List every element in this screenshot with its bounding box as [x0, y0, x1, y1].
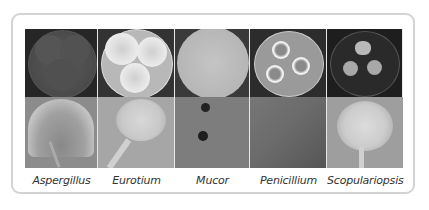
micro-eurotium — [98, 97, 175, 168]
plate-penicillium — [250, 29, 327, 97]
image-grid — [25, 29, 403, 168]
plate-mucor — [175, 29, 250, 97]
plate-aspergillus — [25, 29, 98, 97]
label-eurotium: Eurotium — [98, 174, 175, 187]
label-mucor: Mucor — [175, 174, 250, 187]
micro-aspergillus — [25, 97, 98, 168]
genus-labels: Aspergillus Eurotium Mucor Penicillium S… — [25, 174, 403, 187]
plate-eurotium — [98, 29, 175, 97]
label-aspergillus: Aspergillus — [25, 174, 98, 187]
micro-mucor — [175, 97, 250, 168]
plate-scopulariopsis — [327, 29, 403, 97]
label-scopulariopsis: Scopulariopsis — [327, 174, 403, 187]
micro-penicillium — [250, 97, 327, 168]
label-penicillium: Penicillium — [250, 174, 327, 187]
micro-scopulariopsis — [327, 97, 403, 168]
